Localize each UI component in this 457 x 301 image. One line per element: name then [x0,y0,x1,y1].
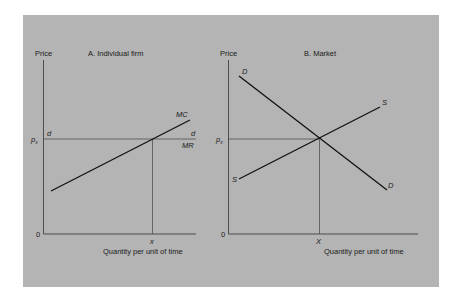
panel-a-mr-label: MR [182,141,194,150]
panel-b-origin: 0 [221,230,225,239]
panel-market: Price B. Market 0 D D S S px X Quantity … [215,49,418,256]
panel-a-title: A. Individual firm [88,49,143,58]
panel-b-qty-tick: X [315,237,322,246]
panel-b-d-bottom-label: D [388,181,394,190]
panel-a-mc-curve [51,120,190,191]
panel-a-mc-label: MC [176,110,188,119]
panel-a-price-tick: px [30,135,38,145]
supply-demand-diagram: Price A. Individual firm 0 MC d d MR px … [0,0,457,301]
panel-b-price-tick: px [215,135,223,145]
panel-b-title: B. Market [304,49,337,58]
panel-individual-firm: Price A. Individual firm 0 MC d d MR px … [30,49,196,256]
panel-a-x-label: Quantity per unit of time [103,247,183,256]
panel-a-y-label: Price [35,49,52,58]
panel-b-demand-curve [239,76,387,190]
panel-a-origin: 0 [36,230,40,239]
panel-b-d-top-label: D [242,67,248,76]
panel-b-s-top-label: S [382,98,387,107]
panel-b-x-label: Quantity per unit of time [324,247,404,256]
panel-a-d-left-label: d [47,129,52,138]
panel-a-qty-tick: x [149,237,154,246]
panel-a-d-right-label: d [191,129,196,138]
panel-b-s-bottom-label: S [232,175,237,184]
panel-b-y-label: Price [220,49,237,58]
